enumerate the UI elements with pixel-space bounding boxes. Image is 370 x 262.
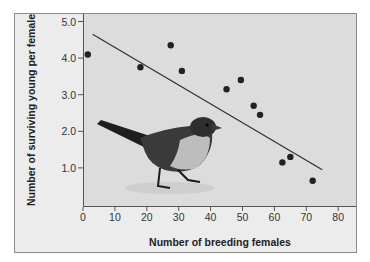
data-point [223, 86, 229, 92]
chart-canvas [0, 0, 370, 262]
tick-marks [78, 22, 338, 212]
data-point [250, 102, 256, 108]
data-point [137, 64, 143, 70]
data-point [179, 68, 185, 74]
data-point [257, 112, 263, 118]
data-point [287, 154, 293, 160]
data-point [85, 51, 91, 57]
bird-illustration [97, 117, 222, 194]
data-point [238, 77, 244, 83]
data-point [279, 159, 285, 165]
data-point [309, 178, 315, 184]
data-point [168, 42, 174, 48]
